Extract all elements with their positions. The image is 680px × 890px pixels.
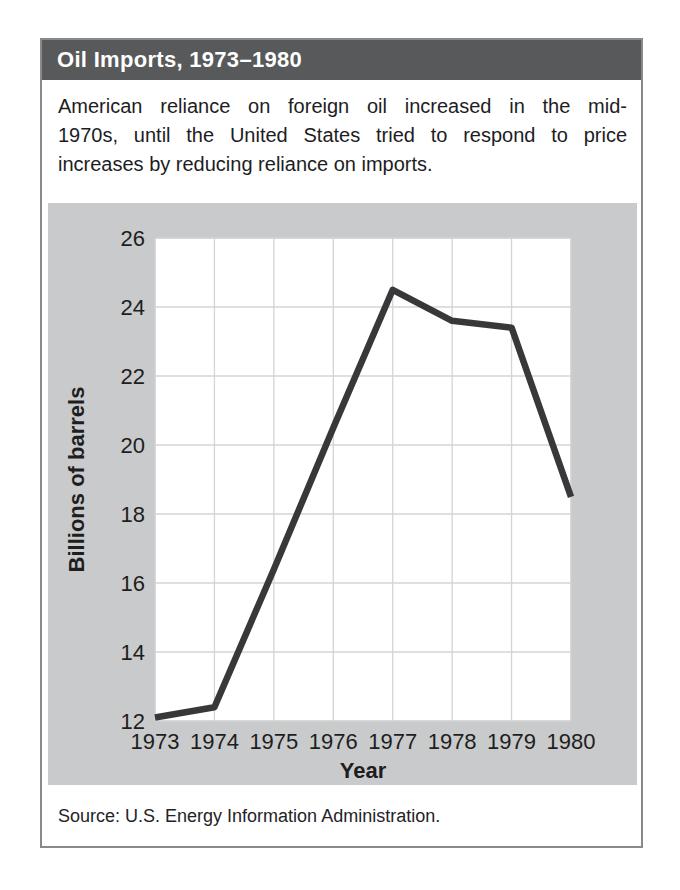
y-tick-label: 16 [121,571,145,596]
x-tick-label: 1979 [487,729,536,754]
chart-panel: 1214161820222426197319741975197619771978… [48,203,637,785]
y-tick-label: 24 [121,295,145,320]
y-axis-label: Billions of barrels [64,387,89,573]
figure-card: Oil Imports, 1973–1980 American reliance… [40,38,643,848]
x-tick-label: 1974 [190,729,239,754]
page: Oil Imports, 1973–1980 American reliance… [0,0,680,890]
x-tick-label: 1976 [309,729,358,754]
x-tick-label: 1980 [547,729,596,754]
x-tick-label: 1975 [249,729,298,754]
description-line: 1970s, until the United States tried to … [58,121,627,150]
y-tick-label: 20 [121,433,145,458]
x-tick-label: 1978 [428,729,477,754]
description-line: American reliance on foreign oil increas… [58,92,627,121]
oil-imports-line-chart: 1214161820222426197319741975197619771978… [48,203,637,785]
y-tick-label: 14 [121,640,145,665]
x-tick-label: 1977 [368,729,417,754]
y-tick-label: 22 [121,364,145,389]
x-axis-label: Year [340,758,387,783]
figure-title: Oil Imports, 1973–1980 [57,47,302,73]
figure-description: American reliance on foreign oil increas… [58,92,627,179]
y-tick-label: 26 [121,226,145,251]
description-line: increases by reducing reliance on import… [58,150,627,179]
plot-area [155,238,571,721]
x-tick-label: 1973 [131,729,180,754]
source-note: Source: U.S. Energy Information Administ… [58,806,627,827]
figure-title-bar: Oil Imports, 1973–1980 [42,40,641,80]
y-tick-label: 18 [121,502,145,527]
